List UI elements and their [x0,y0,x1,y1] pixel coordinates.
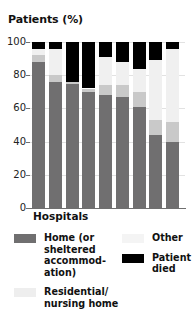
legend-label-died: Patient died [152,252,193,275]
bar-segment [99,57,112,85]
bar-segment [149,120,162,135]
x-axis-line [29,208,186,209]
bar-segment [66,82,79,84]
legend-swatch-residential-icon [14,288,36,297]
bar-segment [66,84,79,209]
bar-segment [32,49,45,56]
y-axis-tick-mark [26,142,30,143]
y-axis-tick-mark [26,42,30,43]
y-axis-tick-mark [26,175,30,176]
bar-segment [166,49,179,122]
y-axis-tick-label: 60 [13,103,26,113]
bar-segment [99,85,112,95]
bar-segment [82,42,95,88]
bar-segment [149,60,162,120]
bar-segment [116,97,129,208]
bar-segment [166,122,179,142]
bar-column [49,42,62,208]
bar-column [99,42,112,208]
bar-segment [166,42,179,49]
y-axis-tick-label: 80 [13,70,26,80]
bar-segment [116,85,129,97]
bar-segment [49,42,62,49]
bar-segment [133,42,146,69]
chart-title: Patients (%) [8,13,83,26]
bar-segment [66,42,79,82]
legend-item-other: Other [122,232,193,244]
bar-column [66,42,79,208]
bar-segment [82,92,95,208]
y-axis-tick-label: 100 [7,37,26,47]
legend-column-left: Home (or sheltered accommod- ation) Resi… [14,232,122,317]
bar-segment [49,75,62,82]
bar-column [82,42,95,208]
bar-segment [32,42,45,49]
y-axis-tick-label: 0 [20,203,26,213]
legend-swatch-died-icon [122,254,144,263]
legend-swatch-other-icon [122,234,144,243]
bar-column [149,42,162,208]
y-axis-tick-label: 20 [13,170,26,180]
bar-segment [133,107,146,208]
bar-segment [32,55,45,62]
bar-segment [116,62,129,85]
bar-segment [133,92,146,107]
bar-column [116,42,129,208]
bar-segment [166,142,179,208]
legend-swatch-home-icon [14,234,36,243]
bar-segment [133,69,146,92]
x-axis-label: Hospitals [33,210,88,222]
bar-segment [149,135,162,208]
plot-area: 020406080100 [30,42,185,208]
bar-segment [149,42,162,60]
legend-item-died: Patient died [122,252,193,275]
legend-label-home: Home (or sheltered accommod- ation) [44,232,122,278]
y-axis-tick-mark [26,75,30,76]
y-axis-tick-label: 40 [13,137,26,147]
bar-column [166,42,179,208]
legend-label-residential: Residential/ nursing home [44,286,122,309]
bar-segment [49,49,62,76]
stacked-bar-chart-figure: Patients (%) 020406080100 Hospitals Home… [0,0,193,322]
bar-segment [116,42,129,62]
legend-label-other: Other [152,232,193,244]
bar-segment [99,42,112,57]
bar-segment [49,82,62,208]
y-axis-tick-mark [26,108,30,109]
bar-segment [32,62,45,208]
bar-segment [82,89,95,92]
legend-item-home: Home (or sheltered accommod- ation) [14,232,122,278]
bar-column [133,42,146,208]
legend-item-residential: Residential/ nursing home [14,286,122,309]
legend-column-right: Other Patient died [122,232,193,283]
bar-segment [99,95,112,208]
chart-legend: Home (or sheltered accommod- ation) Resi… [0,232,193,322]
bar-column [32,42,45,208]
